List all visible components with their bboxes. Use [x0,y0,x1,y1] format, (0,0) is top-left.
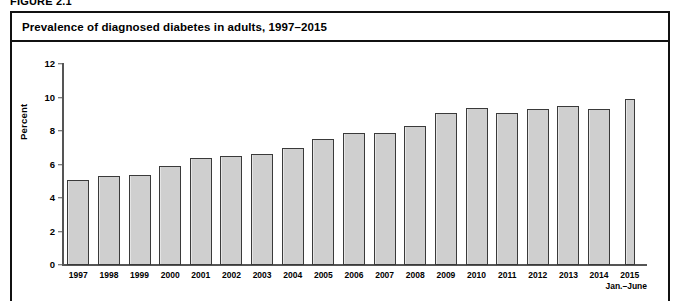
x-axis-sub-label: Jan.–June [605,281,647,291]
bar [527,109,549,265]
y-axis-tick: 8 [50,126,63,136]
x-axis-tick-label: 2008 [406,270,425,280]
bar [251,154,273,265]
y-axis-tick-mark [58,164,63,165]
plot-area: 024681012 [63,64,645,265]
x-axis-tick-label: 2007 [375,270,394,280]
x-axis-tick-label: 2009 [436,270,455,280]
y-axis-tick-mark [58,198,63,199]
bar [435,113,457,265]
x-axis-tick-label: 2002 [222,270,241,280]
x-axis-tick-label: 2004 [283,270,302,280]
title-divider [12,40,668,42]
bar [67,180,89,265]
bar [625,99,635,265]
y-axis-tick-label: 10 [44,93,55,103]
y-axis-label: Percent [18,104,29,140]
y-axis-tick-label: 8 [50,126,55,136]
bar [159,166,181,265]
x-axis-tick-label: 2015 [620,270,639,280]
y-axis-tick-label: 2 [50,227,55,237]
y-axis-tick-label: 6 [50,160,55,170]
x-axis-tick-label: 2013 [559,270,578,280]
y-axis-tick: 12 [44,59,63,69]
bar [190,158,212,265]
y-axis-tick-mark [58,64,63,65]
bar [466,108,488,265]
x-axis-tick-label: 1998 [99,270,118,280]
bar [312,139,334,265]
y-axis-tick: 0 [50,260,63,270]
x-axis-tick-label: 2005 [314,270,333,280]
figure-number-label: FIGURE 2.1 [10,0,130,8]
page-title: Prevalence of diagnosed diabetes in adul… [12,21,327,33]
y-axis-tick-label: 12 [44,59,55,69]
y-axis-tick-mark [58,131,63,132]
x-axis-tick-label: 2012 [528,270,547,280]
bar [404,126,426,265]
x-axis-tick-label: 2003 [253,270,272,280]
x-axis-tick-label: 2000 [161,270,180,280]
y-axis-tick-label: 0 [50,260,55,270]
bar [282,148,304,265]
x-axis-tick-label: 2011 [498,270,516,280]
bar [588,109,610,265]
x-axis-tick-label: 1999 [130,270,149,280]
bar [557,106,579,265]
bar [220,156,242,265]
y-axis-tick: 4 [50,193,63,203]
bar [343,133,365,265]
x-axis-tick-label: 2006 [345,270,364,280]
y-axis-tick-mark [58,265,63,266]
x-axis-tick-label: 2010 [467,270,486,280]
bar [496,113,518,265]
figure-title-bar: Prevalence of diagnosed diabetes in adul… [12,14,668,40]
y-axis-tick: 2 [50,227,63,237]
footnote-sliver [24,297,654,302]
x-axis-tick-label: 2001 [191,270,210,280]
bar [129,175,151,265]
y-axis-tick: 10 [44,93,63,103]
y-axis-tick: 6 [50,160,63,170]
x-axis-tick-label: 2014 [590,270,609,280]
bar [374,133,396,265]
y-axis-tick-label: 4 [50,193,55,203]
figure-screenshot: FIGURE 2.1 Prevalence of diagnosed diabe… [0,0,683,302]
y-axis-tick-mark [58,231,63,232]
y-axis-tick-mark [58,97,63,98]
bar [98,176,120,265]
x-axis-tick-label: 1997 [69,270,88,280]
